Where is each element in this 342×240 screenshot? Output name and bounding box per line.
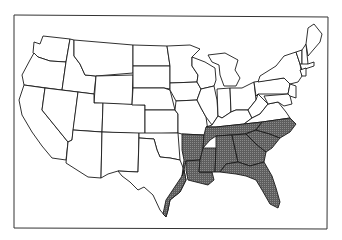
state-montana xyxy=(74,40,133,76)
state-iowa xyxy=(170,82,201,101)
state-north-dakota xyxy=(133,45,170,66)
state-florida xyxy=(220,162,280,208)
us-map xyxy=(0,0,342,240)
state-kansas xyxy=(145,110,178,134)
state-maine xyxy=(306,24,322,56)
state-colorado xyxy=(102,103,145,134)
state-wyoming xyxy=(94,75,133,105)
state-south-dakota xyxy=(133,66,170,89)
